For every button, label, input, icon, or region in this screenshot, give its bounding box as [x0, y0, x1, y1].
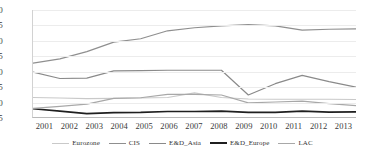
x-tick-label-2001: 2001 [32, 120, 57, 132]
series-line-lac [33, 94, 356, 108]
gridline-30 [33, 72, 356, 73]
legend-item-eurozone[interactable]: Eurozone [52, 139, 100, 147]
gridline-35 [33, 56, 356, 57]
x-tick-label-2009: 2009 [231, 120, 256, 132]
x-tick-label-2006: 2006 [157, 120, 182, 132]
y-tick-label-40: 40 [0, 37, 3, 46]
y-tick-label-50: 50 [0, 6, 3, 15]
legend-swatch-eurozone [52, 143, 69, 144]
legend-label-cis: CIS [129, 139, 140, 147]
x-axis: 2001200220032004200520062007200820092010… [32, 120, 356, 132]
legend-swatch-e-d-asia [149, 143, 166, 144]
x-tick-label-2005: 2005 [132, 120, 157, 132]
y-tick-label-20: 20 [0, 99, 3, 108]
series-line-e-d-europe [33, 109, 356, 114]
legend-swatch-cis [109, 143, 126, 144]
x-tick-label-2004: 2004 [107, 120, 132, 132]
gridline-20 [33, 103, 356, 104]
y-tick-label-35: 35 [0, 52, 3, 61]
legend-item-e-d-asia[interactable]: E&D_Asia [149, 139, 201, 147]
legend-label-lac: LAC [298, 139, 312, 147]
x-tick-label-2012: 2012 [306, 120, 331, 132]
x-tick-label-2010: 2010 [256, 120, 281, 132]
x-tick-label-2011: 2011 [281, 120, 306, 132]
x-tick-label-2013: 2013 [331, 120, 356, 132]
plot-area [32, 10, 356, 118]
series-line-cis [33, 25, 356, 64]
x-tick-label-2008: 2008 [206, 120, 231, 132]
line-chart: 1520253035404550 20012002200320042005200… [0, 0, 365, 155]
legend-label-e-d-europe: E&D_Europe [230, 139, 270, 147]
legend-label-eurozone: Eurozone [72, 139, 100, 147]
gridline-40 [33, 41, 356, 42]
y-tick-label-15: 15 [0, 114, 3, 123]
x-tick-label-2003: 2003 [82, 120, 107, 132]
chart-legend: EurozoneCISE&D_AsiaE&D_EuropeLAC [0, 136, 365, 150]
legend-swatch-lac [278, 143, 295, 144]
y-tick-label-45: 45 [0, 21, 3, 30]
series-line-e-d-asia [33, 70, 356, 95]
x-tick-label-2002: 2002 [57, 120, 82, 132]
legend-label-e-d-asia: E&D_Asia [169, 139, 201, 147]
gridline-25 [33, 87, 356, 88]
y-tick-label-30: 30 [0, 68, 3, 77]
legend-item-e-d-europe[interactable]: E&D_Europe [210, 139, 270, 147]
legend-item-cis[interactable]: CIS [109, 139, 140, 147]
legend-swatch-e-d-europe [210, 142, 227, 144]
y-tick-label-25: 25 [0, 83, 3, 92]
gridline-50 [33, 10, 356, 11]
legend-item-lac[interactable]: LAC [278, 139, 312, 147]
gridline-45 [33, 25, 356, 26]
x-tick-label-2007: 2007 [182, 120, 207, 132]
